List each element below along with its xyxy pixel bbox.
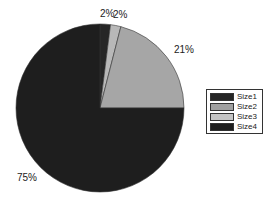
legend-label: Size3 [237, 112, 257, 121]
legend: Size1 Size2 Size3 Size4 [206, 89, 263, 134]
slice-label-size3: 21% [174, 44, 194, 55]
legend-swatch-size2 [210, 103, 234, 111]
legend-label: Size2 [237, 102, 257, 111]
legend-item-size2: Size2 [210, 103, 260, 112]
legend-swatch-size3 [210, 113, 234, 121]
slice-label-size2: 2% [113, 9, 127, 20]
legend-item-size3: Size3 [210, 113, 260, 122]
legend-item-size4: Size4 [210, 123, 260, 132]
slice-label-size4: 75% [17, 172, 37, 183]
legend-label: Size1 [237, 92, 257, 101]
legend-swatch-size4 [210, 123, 234, 131]
legend-item-size1: Size1 [210, 93, 260, 102]
legend-swatch-size1 [210, 93, 234, 101]
legend-label: Size4 [237, 122, 257, 131]
